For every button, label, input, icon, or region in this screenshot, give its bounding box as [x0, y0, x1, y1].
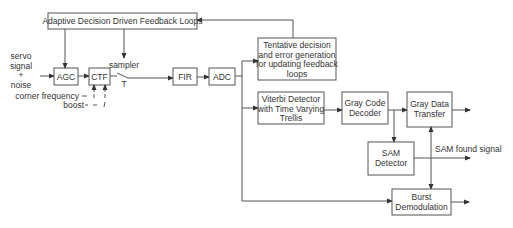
svg-text:with Time Varying: with Time Varying — [257, 104, 325, 114]
svg-text:Viterbi Detector: Viterbi Detector — [262, 94, 321, 104]
svg-text:for updating feedback: for updating feedback — [256, 59, 339, 69]
sam-found-signal-label: SAM found signal — [435, 144, 502, 154]
svg-text:Decoder: Decoder — [349, 108, 381, 118]
svg-text:servo: servo — [11, 51, 32, 61]
gray-data-transfer-block: Gray Data Transfer — [407, 92, 452, 127]
burst-demodulation-block: Burst Demodulation — [392, 189, 451, 215]
fir-block: FIR — [173, 68, 197, 85]
svg-text:and error generation: and error generation — [258, 50, 335, 60]
svg-text:ADC: ADC — [213, 72, 231, 82]
sam-detector-block: SAM Detector — [368, 142, 414, 175]
sampler-label: sampler — [109, 60, 139, 70]
boost-tick-lower — [104, 102, 105, 107]
ctf-block: CTF — [89, 68, 110, 85]
adaptive-feedback-label: Adaptive Decision Driven Feedback Loops — [42, 16, 202, 26]
svg-text:SAM: SAM — [382, 148, 400, 158]
boost-label: boost — [63, 100, 84, 110]
svg-text:FIR: FIR — [178, 72, 192, 82]
sampler-switch — [117, 73, 128, 78]
viterbi-detector-block: Viterbi Detector with Time Varying Trell… — [257, 92, 325, 124]
svg-text:Trellis: Trellis — [280, 113, 302, 123]
svg-text:Transfer: Transfer — [414, 109, 446, 119]
svg-text:Gray Data: Gray Data — [410, 99, 449, 109]
agc-block: AGC — [54, 68, 78, 85]
svg-text:+: + — [19, 70, 24, 80]
svg-text:noise: noise — [11, 80, 32, 90]
svg-text:Demodulation: Demodulation — [395, 202, 448, 212]
adaptive-feedback-block: Adaptive Decision Driven Feedback Loops — [42, 13, 202, 29]
svg-text:Gray Code: Gray Code — [344, 98, 385, 108]
svg-text:loops: loops — [287, 69, 307, 79]
adc-block: ADC — [209, 68, 235, 85]
svg-text:AGC: AGC — [57, 72, 75, 82]
sampler-period-label: T — [121, 79, 126, 89]
tentative-to-adaptive-feedback-arrow — [197, 20, 293, 38]
servo-channel-block-diagram: Adaptive Decision Driven Feedback Loops … — [0, 0, 513, 228]
svg-text:Tentative decision: Tentative decision — [263, 40, 331, 50]
gray-code-decoder-block: Gray Code Decoder — [342, 92, 388, 124]
svg-text:CTF: CTF — [91, 72, 108, 82]
svg-text:Detector: Detector — [375, 158, 407, 168]
input-signal-label: servo signal + noise — [10, 51, 32, 90]
svg-text:Burst: Burst — [412, 192, 432, 202]
tentative-decision-block: Tentative decision and error generation … — [256, 38, 339, 80]
